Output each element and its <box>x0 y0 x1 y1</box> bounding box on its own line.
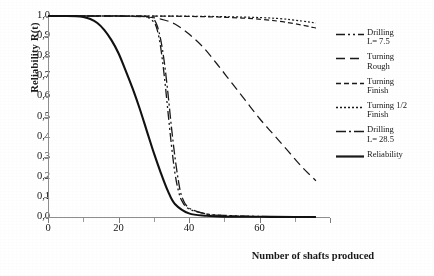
legend-label: Turning Rough <box>367 52 394 71</box>
legend-label: Drilling L= 7.5 <box>367 28 394 47</box>
x-axis-tick-labels: 0204060 <box>48 222 338 238</box>
legend-line-sample <box>336 126 364 137</box>
x-tick-label: 60 <box>254 222 265 233</box>
y-tick-mark <box>44 177 48 178</box>
legend-line-sample <box>336 53 364 64</box>
legend-item: Turning 1/2 Finish <box>336 101 432 120</box>
series-line <box>48 16 316 23</box>
x-tick-label: 40 <box>184 222 195 233</box>
y-tick-mark <box>44 157 48 158</box>
series-line <box>48 16 316 217</box>
legend-line-sample <box>336 151 364 162</box>
chart-legend: Drilling L= 7.5Turning RoughTurning Fini… <box>336 28 432 167</box>
legend-label: Drilling L= 28.5 <box>367 125 394 144</box>
y-tick-mark <box>44 16 48 17</box>
y-tick-mark <box>44 56 48 57</box>
legend-label: Reliability <box>367 150 403 159</box>
series-line <box>48 16 316 181</box>
legend-line-sample <box>336 102 364 113</box>
y-tick-mark <box>44 76 48 77</box>
y-tick-mark <box>44 197 48 198</box>
x-tick-label: 0 <box>45 222 50 233</box>
series-line <box>48 16 316 217</box>
legend-item: Drilling L= 28.5 <box>336 125 432 144</box>
y-tick-mark <box>44 117 48 118</box>
legend-line-sample <box>336 78 364 89</box>
legend-line-sample <box>336 29 364 40</box>
y-axis-tick-labels: 0,00,10,20,30,40,50,60,70,80,91,0 <box>26 0 50 276</box>
series-line <box>48 16 316 217</box>
y-tick-mark <box>44 137 48 138</box>
legend-label: Turning Finish <box>367 77 394 96</box>
legend-item: Reliability <box>336 150 432 162</box>
legend-item: Turning Rough <box>336 52 432 71</box>
series-curves <box>48 15 330 218</box>
x-tick-label: 20 <box>113 222 124 233</box>
chart-figure: Reliability R(t) 0,00,10,20,30,40,50,60,… <box>0 0 434 276</box>
legend-label: Turning 1/2 Finish <box>367 101 407 120</box>
plot-area <box>48 15 330 218</box>
legend-item: Turning Finish <box>336 77 432 96</box>
y-tick-mark <box>44 96 48 97</box>
legend-item: Drilling L= 7.5 <box>336 28 432 47</box>
x-axis-title: Number of shafts produced <box>198 250 428 261</box>
y-tick-mark <box>44 36 48 37</box>
